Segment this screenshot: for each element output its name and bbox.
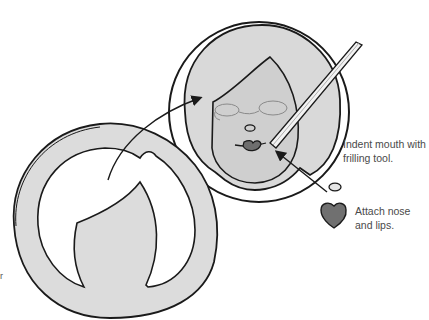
lips	[243, 141, 261, 151]
nose	[245, 125, 255, 131]
label-line: frilling tool.	[343, 151, 429, 165]
lips-piece	[321, 203, 346, 228]
step-label-indent-mouth: Indent mouth with frilling tool.	[343, 137, 429, 165]
nose-piece	[329, 183, 341, 191]
label-line: Indent mouth with	[343, 137, 429, 151]
label-line: and lips.	[355, 218, 425, 232]
cropped-text-fragment: r	[0, 271, 3, 281]
step-label-attach-features: Attach nose and lips.	[355, 204, 425, 232]
label-line: Attach nose	[355, 204, 425, 218]
